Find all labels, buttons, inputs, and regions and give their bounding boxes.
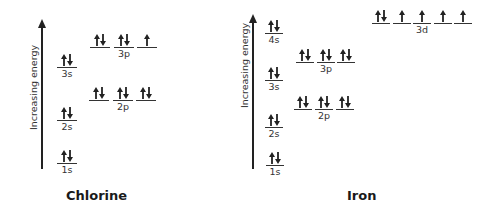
spin-down-arrow-icon — [303, 96, 309, 108]
spin-down-arrow-icon — [346, 49, 352, 61]
electron-spins — [413, 9, 431, 22]
spin-up-arrow-icon — [419, 10, 425, 22]
orbital-line — [137, 47, 157, 48]
orbital — [57, 52, 77, 68]
spin-down-arrow-icon — [100, 34, 106, 46]
electron-spins — [393, 9, 411, 22]
spin-down-arrow-icon — [324, 96, 330, 108]
spin-down-arrow-icon — [124, 34, 130, 46]
sublevel-label: 3d — [410, 24, 434, 35]
orbital — [294, 94, 312, 110]
electron-spins — [90, 33, 110, 46]
orbital-line — [372, 23, 390, 24]
electron-spins — [113, 86, 133, 99]
orbital — [393, 8, 411, 24]
iron-title: Iron — [347, 188, 376, 203]
electron-spins — [296, 48, 314, 61]
electron-spins — [266, 151, 284, 164]
chlorine-title: Chlorine — [66, 188, 127, 203]
orbital-line — [89, 100, 109, 101]
electron-spins — [265, 66, 283, 79]
sublevel-label: 3p — [112, 48, 136, 59]
spin-down-arrow-icon — [381, 10, 387, 22]
sublevel-label: 1s — [55, 164, 79, 175]
spin-down-arrow-icon — [326, 49, 332, 61]
orbital — [265, 65, 283, 81]
orbital-line — [294, 109, 312, 110]
spin-up-arrow-icon — [144, 34, 150, 46]
spin-down-arrow-icon — [274, 114, 280, 126]
sublevel-label: 2p — [111, 101, 135, 112]
orbital-line — [434, 23, 452, 24]
sublevel-label: 3p — [314, 63, 338, 74]
electron-spins — [57, 53, 77, 66]
orbital — [114, 32, 134, 48]
orbital — [434, 8, 452, 24]
electron-spins — [136, 86, 156, 99]
sublevel-label: 2s — [262, 128, 286, 139]
sublevel-label: 2p — [312, 110, 336, 121]
electron-spins — [57, 149, 77, 162]
electron-spins — [89, 86, 109, 99]
orbital — [137, 32, 157, 48]
spin-up-arrow-icon — [399, 10, 405, 22]
energy-axis-label: Increasing energy — [239, 21, 250, 111]
orbital — [136, 85, 156, 101]
orbital-line — [393, 23, 411, 24]
sublevel-label: 3s — [55, 68, 79, 79]
spin-down-arrow-icon — [274, 20, 280, 32]
orbital-line — [336, 109, 354, 110]
orbital-line — [136, 100, 156, 101]
electron-spins — [317, 48, 335, 61]
electron-spins — [372, 9, 390, 22]
electron-spins — [137, 33, 157, 46]
orbital — [266, 150, 284, 166]
spin-down-arrow-icon — [99, 87, 105, 99]
orbital — [336, 94, 354, 110]
sublevel-label: 3s — [262, 81, 286, 92]
spin-down-arrow-icon — [345, 96, 351, 108]
orbital — [113, 85, 133, 101]
electron-spins — [265, 113, 283, 126]
electron-spins — [434, 9, 452, 22]
orbital-line — [90, 47, 110, 48]
orbital — [265, 18, 283, 34]
orbital — [90, 32, 110, 48]
electron-spins — [114, 33, 134, 46]
energy-axis — [252, 21, 254, 169]
orbital — [337, 47, 355, 63]
electron-spins — [454, 9, 472, 22]
orbital — [57, 148, 77, 164]
spin-down-arrow-icon — [275, 152, 281, 164]
electron-spins — [265, 19, 283, 32]
sublevel-label: 4s — [262, 34, 286, 45]
spin-down-arrow-icon — [123, 87, 129, 99]
spin-down-arrow-icon — [67, 150, 73, 162]
spin-up-arrow-icon — [460, 10, 466, 22]
sublevel-label: 1s — [263, 166, 287, 177]
electron-spins — [336, 95, 354, 108]
orbital — [317, 47, 335, 63]
orbital — [296, 47, 314, 63]
electron-spins — [315, 95, 333, 108]
orbital — [265, 112, 283, 128]
spin-down-arrow-icon — [67, 107, 73, 119]
energy-axis-label: Increasing energy — [28, 43, 39, 133]
spin-up-arrow-icon — [440, 10, 446, 22]
orbital-diagram: Increasing energy 3p 3s 2p 2s 1s — [0, 0, 495, 207]
orbital — [413, 8, 431, 24]
electron-spins — [57, 106, 77, 119]
orbital — [89, 85, 109, 101]
spin-down-arrow-icon — [67, 54, 73, 66]
energy-axis — [41, 26, 43, 169]
orbital-line — [296, 62, 314, 63]
orbital — [57, 105, 77, 121]
orbital-line — [454, 23, 472, 24]
sublevel-label: 2s — [55, 121, 79, 132]
orbital-line — [337, 62, 355, 63]
spin-down-arrow-icon — [305, 49, 311, 61]
spin-down-arrow-icon — [274, 67, 280, 79]
orbital — [372, 8, 390, 24]
orbital — [315, 94, 333, 110]
electron-spins — [337, 48, 355, 61]
